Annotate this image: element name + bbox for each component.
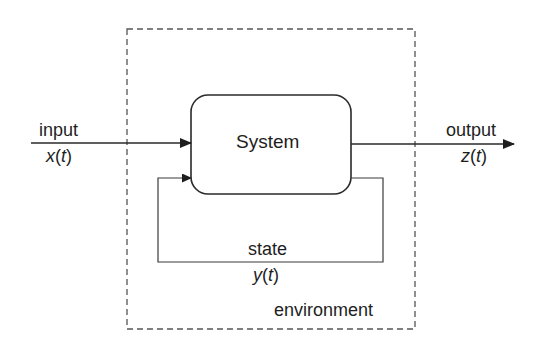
system-label: System [236, 132, 299, 152]
state-signal: y(t) [253, 265, 279, 285]
output-signal-fn: z [461, 146, 470, 166]
input-signal-fn: x [46, 146, 55, 166]
output-signal: z(t) [461, 146, 487, 166]
state-signal-fn: y [253, 265, 262, 285]
block-diagram [0, 0, 535, 346]
state-signal-close: ) [273, 265, 279, 285]
environment-label: environment [274, 300, 373, 320]
input-signal: x(t) [46, 146, 72, 166]
output-label: output [446, 120, 496, 140]
output-signal-close: ) [481, 146, 487, 166]
input-label: input [39, 120, 78, 140]
state-label: state [248, 239, 287, 259]
input-signal-close: ) [66, 146, 72, 166]
